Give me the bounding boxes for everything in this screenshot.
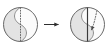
- left-panel: [2, 8, 40, 42]
- figure-diagram: [0, 0, 110, 49]
- right-panel: [69, 8, 107, 42]
- figure-root: [0, 0, 110, 49]
